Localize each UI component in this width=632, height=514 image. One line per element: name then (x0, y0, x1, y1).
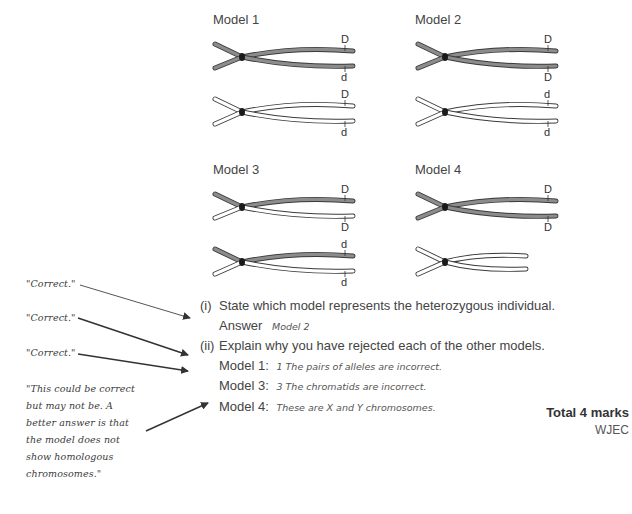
arrow-icon (146, 403, 208, 431)
arrow-icon (78, 354, 188, 371)
arrow-icon (80, 285, 190, 318)
total-marks: Total 4 marks (546, 405, 629, 420)
arrow-icon (78, 318, 188, 355)
comment-arrows (0, 0, 632, 514)
exam-board: WJEC (595, 423, 629, 437)
